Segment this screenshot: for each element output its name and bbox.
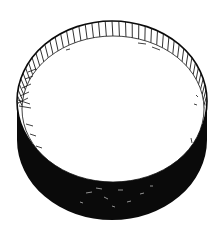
cylinder-lid-drawing <box>0 0 224 231</box>
top-face <box>22 36 204 182</box>
